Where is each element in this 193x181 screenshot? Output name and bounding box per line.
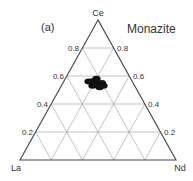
grid-line [36, 132, 52, 160]
tick-left-0.6: 0.6 [53, 72, 65, 81]
tick-left-0.8: 0.8 [68, 44, 80, 53]
grid-line [82, 76, 129, 160]
tick-left-0.2: 0.2 [22, 128, 34, 137]
data-point [95, 84, 103, 90]
grid-line [67, 76, 114, 160]
triangle-frame [20, 20, 176, 160]
grid-line [145, 132, 161, 160]
vertex-label-nd: Nd [174, 163, 186, 173]
ternary-diagram: Ce La Nd (a) Monazite 0.8 0.6 0.4 0.2 0.… [0, 0, 193, 181]
vertex-label-ce: Ce [92, 8, 104, 18]
tick-right-0.2: 0.2 [164, 128, 176, 137]
grid-lines [36, 48, 161, 160]
data-cluster [84, 76, 107, 90]
tick-right-0.4: 0.4 [148, 100, 160, 109]
vertex-label-la: La [11, 163, 21, 173]
tick-left-0.4: 0.4 [37, 100, 49, 109]
data-point [84, 79, 92, 85]
data-point [92, 76, 100, 82]
panel-label: (a) [41, 21, 54, 33]
tick-right-0.6: 0.6 [133, 72, 145, 81]
tick-right-0.8: 0.8 [117, 44, 129, 53]
chart-title: Monazite [127, 22, 176, 36]
